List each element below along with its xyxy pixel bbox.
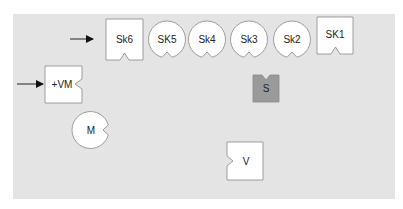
label-s: S [263,83,270,94]
label-sk3: Sk3 [240,34,258,45]
label-m: M [87,125,95,136]
label-sk2: Sk2 [283,34,301,45]
label-sk5: SK5 [158,34,177,45]
label-vm: +VM [52,79,73,90]
block-sk6[interactable]: Sk6 [106,19,143,60]
block-sk3[interactable]: Sk3 [231,21,268,57]
block-s[interactable]: S [253,75,279,102]
label-sk1: SK1 [326,29,345,40]
block-sk2[interactable]: Sk2 [274,21,311,57]
diagram-svg: Sk6 SK5 Sk4 Sk3 Sk2 SK1 +VM M S [0,0,403,209]
label-sk6: Sk6 [116,34,134,45]
block-v[interactable]: V [227,142,263,180]
block-sk1[interactable]: SK1 [317,17,353,54]
label-sk4: Sk4 [198,34,216,45]
block-m[interactable]: M [72,112,108,149]
block-sk4[interactable]: Sk4 [189,21,226,57]
block-sk5[interactable]: SK5 [148,21,185,57]
block-vm[interactable]: +VM [45,66,82,103]
label-v: V [243,156,250,167]
